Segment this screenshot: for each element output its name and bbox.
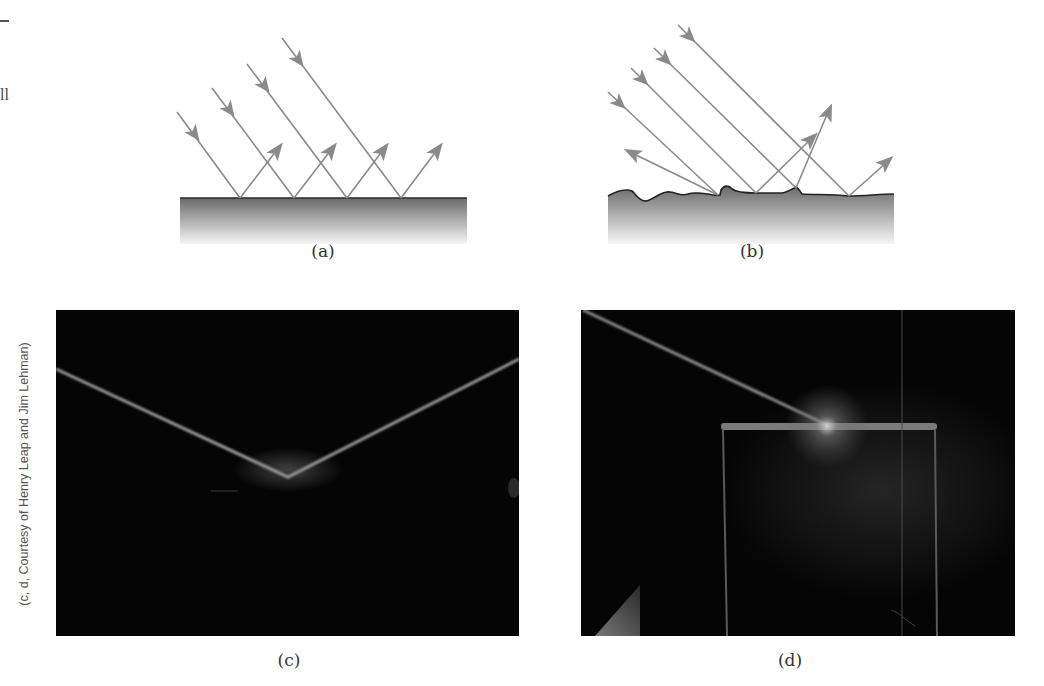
- panel-b-svg: [0, 0, 1044, 300]
- photo-d-diffuse-reflection: [581, 310, 1015, 636]
- caption-b: (b): [722, 241, 782, 261]
- photo-c-svg: [56, 310, 519, 636]
- diffuse-glare: [785, 384, 869, 468]
- photo-c-specular-reflection: [56, 310, 519, 636]
- caption-d: (d): [760, 650, 820, 670]
- surface-scratch: [891, 610, 915, 626]
- faint-spot: [508, 478, 519, 498]
- reflection-glow: [233, 448, 343, 492]
- incident-arrowheads: [609, 26, 700, 114]
- reflected-rays: [632, 112, 887, 196]
- photo-d-svg: [581, 310, 1015, 636]
- block-left-edge: [723, 430, 727, 636]
- photo-credit: (c, d, Courtesy of Henry Leap and Jim Le…: [17, 342, 31, 605]
- cone-object: [595, 585, 640, 636]
- incident-rays: [608, 25, 849, 196]
- reflected-arrowheads: [621, 101, 898, 174]
- scatter-haze: [721, 380, 1015, 600]
- caption-c: (c): [259, 650, 319, 670]
